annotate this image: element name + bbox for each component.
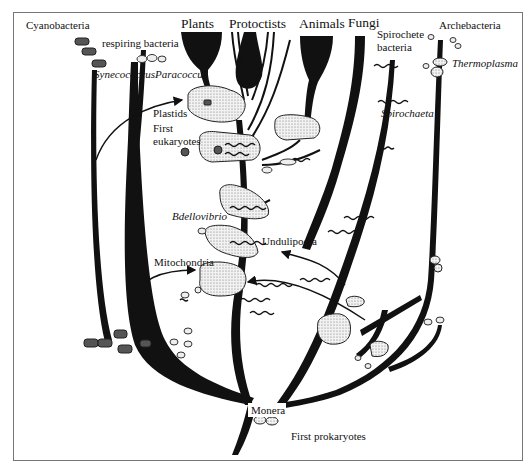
label-spirochete-bacteria: bacteria — [377, 41, 412, 53]
label-respiring-bacteria: respiring bacteria — [102, 37, 179, 49]
large-archaea-cell — [318, 314, 351, 344]
label-undulipodia: Undulipodia — [262, 235, 317, 247]
protoctist-cell — [275, 115, 320, 140]
archaea-cell-small — [346, 296, 364, 307]
label-animals: Animals — [299, 18, 345, 30]
label-spirochaeta: Spirochaeta — [381, 107, 434, 119]
label-bdellovibrio: Bdellovibrio — [172, 210, 227, 222]
label-eukaryotes: eukaryotes — [153, 135, 201, 147]
label-first: First — [153, 122, 173, 134]
archaea-cell-mid — [370, 341, 388, 356]
label-mitochondria: Mitochondria — [154, 256, 214, 268]
label-monera: Monera — [251, 404, 285, 416]
label-archebacteria: Archebacteria — [439, 19, 501, 31]
first-eukaryote-cell — [199, 131, 260, 162]
plastid-cell — [188, 86, 245, 122]
label-plants: Plants — [181, 18, 214, 30]
label-fungi: Fungi — [348, 17, 380, 29]
label-synechococcus: Synecococcus — [94, 68, 155, 80]
label-plastids: Plastids — [153, 107, 187, 119]
label-protoctists: Protoctists — [229, 18, 286, 30]
thermoplasma-cell — [433, 58, 447, 66]
label-first-prokaryotes: First prokaryotes — [291, 430, 366, 442]
tree-diagram — [0, 0, 531, 468]
label-spirochete: Spirochete — [377, 28, 424, 40]
label-cyanobacteria: Cyanobacteria — [26, 19, 90, 31]
label-thermoplasma: Thermoplasma — [452, 57, 518, 69]
bdellovibrio-host-cell — [220, 185, 269, 219]
label-paracoccus: Paracoccus — [155, 68, 207, 80]
respiring-bacteria-cells — [137, 35, 461, 369]
